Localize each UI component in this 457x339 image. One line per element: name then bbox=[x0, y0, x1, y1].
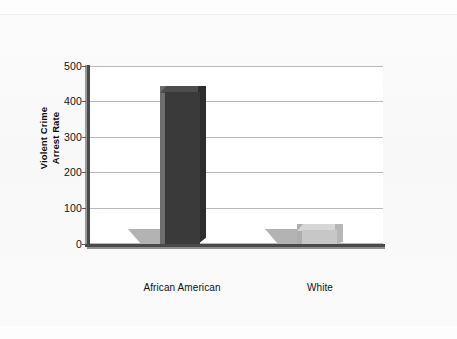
y-tick-label-100: 100 bbox=[42, 202, 82, 214]
y-axis-title-line1: Violent Crime bbox=[38, 78, 50, 198]
bar-face-white bbox=[302, 230, 337, 244]
x-axis-label-african-american: African American bbox=[122, 282, 242, 293]
y-tick-mark-0 bbox=[82, 244, 86, 245]
y-tick-mark-300 bbox=[82, 137, 86, 138]
x-axis-label-white: White bbox=[265, 282, 375, 293]
gridline-300 bbox=[89, 137, 383, 138]
bar-face-african-american bbox=[165, 92, 200, 244]
y-axis-title-line2: Arrest Rate bbox=[50, 78, 62, 198]
y-axis-title: Violent Crime Arrest Rate bbox=[38, 78, 62, 198]
y-axis-line bbox=[87, 65, 90, 246]
y-tick-label-500: 500 bbox=[42, 60, 82, 72]
y-tick-mark-200 bbox=[82, 172, 86, 173]
y-tick-mark-100 bbox=[82, 208, 86, 209]
gridline-100 bbox=[89, 208, 383, 209]
y-tick-mark-500 bbox=[82, 66, 86, 67]
x-axis-shadow bbox=[87, 247, 385, 249]
plot-area bbox=[89, 66, 383, 244]
y-tick-label-0: 0 bbox=[42, 238, 82, 250]
chart-page: 500 400 300 200 100 0 Violent Crime Arre… bbox=[0, 0, 457, 339]
plot-background bbox=[89, 66, 383, 244]
y-tick-mark-400 bbox=[82, 101, 86, 102]
gridline-200 bbox=[89, 172, 383, 173]
gridline-400 bbox=[89, 101, 383, 102]
gridline-500 bbox=[89, 66, 383, 67]
x-axis-line bbox=[85, 244, 385, 247]
